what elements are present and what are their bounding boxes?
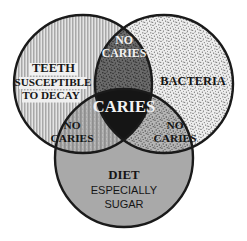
label-caries-top: CARIES <box>102 46 147 60</box>
label-caries-right: CARIES <box>153 132 196 144</box>
label-teeth-line2: SUSCEPTIBLE <box>14 76 91 88</box>
label-bacteria-text: BACTERIA <box>160 74 225 88</box>
label-bacteria: BACTERIA <box>160 74 225 88</box>
label-caries-left: CARIES <box>50 132 93 144</box>
label-teeth-line3: TO DECAY <box>22 89 80 101</box>
venn-diagram-container: TEETH SUSCEPTIBLE TO DECAY BACTERIA NO C… <box>0 0 247 241</box>
label-diet-line1: DIET <box>108 168 140 182</box>
label-no-right: NO <box>166 119 183 131</box>
label-diet-line2: ESPECIALLY <box>91 184 158 196</box>
label-no-top: NO <box>115 33 133 47</box>
venn-diagram-svg: TEETH SUSCEPTIBLE TO DECAY BACTERIA NO C… <box>0 0 247 241</box>
label-diet-line3: SUGAR <box>104 198 143 210</box>
label-center-text: CARIES <box>93 97 155 116</box>
label-teeth-line1: TEETH <box>32 61 75 75</box>
label-no-left: NO <box>63 119 80 131</box>
label-center: CARIES <box>93 97 155 116</box>
